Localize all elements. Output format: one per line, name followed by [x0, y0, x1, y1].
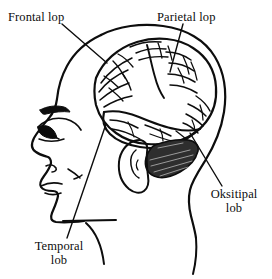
neck [86, 223, 196, 274]
lower-eyelid [39, 139, 64, 141]
label-temporal-lobe: Temporallob [22, 240, 96, 267]
chin-jaw-line [63, 220, 116, 221]
brain-lobes-diagram: Frontal lop Parietal lop Oksitipallob Te… [0, 0, 272, 279]
eyebrow [40, 106, 70, 114]
label-occipital-line1: Oksitipal [211, 187, 258, 201]
cerebrum-gyri [95, 39, 217, 148]
diagram-canvas [0, 0, 272, 279]
label-parietal-lobe: Parietal lop [157, 11, 215, 25]
cheek-lines [68, 169, 82, 179]
leader-line-frontal [62, 24, 107, 63]
eye [38, 126, 59, 139]
label-occipital-line2: lob [226, 201, 242, 215]
label-frontal-lobe: Frontal lop [8, 11, 64, 25]
label-occipital-lobe: Oksitipallob [202, 188, 266, 215]
label-temporal-line1: Temporal [35, 239, 84, 253]
label-temporal-line2: lob [51, 253, 67, 267]
cerebellum-hatched [145, 140, 198, 178]
